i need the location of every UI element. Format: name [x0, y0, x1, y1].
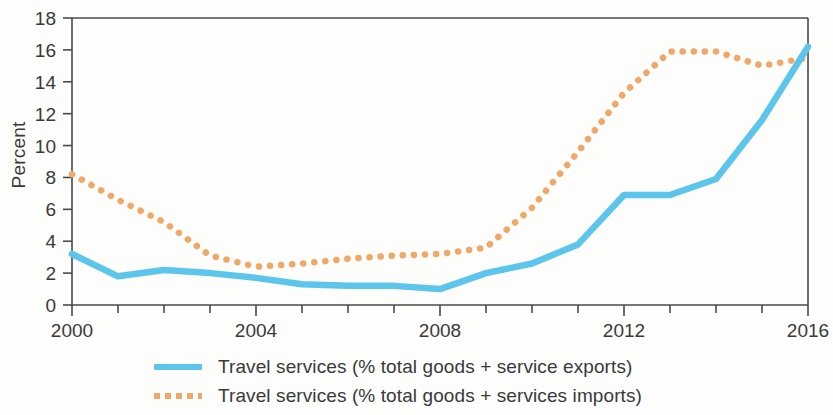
legend-item-imports: Travel services (% total goods + service…: [150, 381, 750, 410]
x-tick-label: 2016: [787, 320, 829, 341]
chart-figure: Percent 024681012141618 2000200420082012…: [0, 0, 833, 415]
exports-series-line: [72, 47, 808, 289]
x-axis-ticks: 20002004200820122016: [51, 305, 829, 341]
x-tick-label: 2004: [235, 320, 278, 341]
y-tick-label: 0: [45, 295, 56, 316]
y-tick-label: 4: [45, 231, 56, 252]
y-tick-label: 14: [35, 72, 57, 93]
solid-line-swatch-icon: [150, 356, 206, 378]
dotted-line-swatch-icon: [150, 385, 206, 407]
y-tick-label: 12: [35, 104, 56, 125]
y-tick-label: 18: [35, 8, 56, 29]
legend-label-imports: Travel services (% total goods + service…: [218, 385, 642, 407]
imports-series-line: [72, 51, 808, 266]
y-tick-label: 2: [45, 263, 56, 284]
y-tick-label: 8: [45, 167, 56, 188]
x-tick-label: 2012: [603, 320, 645, 341]
y-axis-ticks: 024681012141618: [35, 8, 72, 316]
legend-item-exports: Travel services (% total goods + service…: [150, 352, 750, 381]
y-tick-label: 16: [35, 40, 56, 61]
x-tick-label: 2008: [419, 320, 461, 341]
chart-legend: Travel services (% total goods + service…: [150, 352, 750, 410]
x-tick-label: 2000: [51, 320, 93, 341]
legend-label-exports: Travel services (% total goods + service…: [218, 356, 632, 378]
y-tick-label: 6: [45, 199, 56, 220]
y-tick-label: 10: [35, 136, 56, 157]
